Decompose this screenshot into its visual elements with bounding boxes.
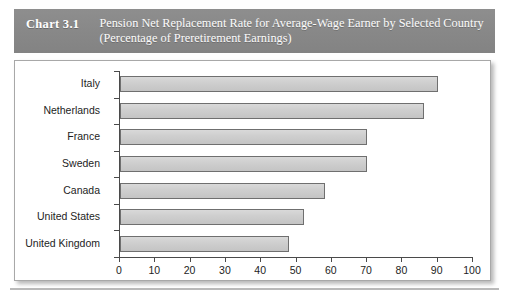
x-tick <box>260 257 261 262</box>
x-tick-label: 30 <box>219 264 231 276</box>
y-tick <box>114 177 119 178</box>
y-tick <box>114 230 119 231</box>
bar-united-kingdom <box>120 236 289 252</box>
bar-italy <box>120 76 438 92</box>
y-tick <box>114 204 119 205</box>
y-tick <box>114 151 119 152</box>
x-tick-label: 100 <box>463 264 481 276</box>
chart-title: Pension Net Replacement Rate for Average… <box>99 16 487 46</box>
x-tick-label: 20 <box>184 264 196 276</box>
x-tick-label: 0 <box>116 264 122 276</box>
bar-france <box>120 129 367 145</box>
y-tick <box>114 98 119 99</box>
x-tick-label: 80 <box>396 264 408 276</box>
x-tick <box>331 257 332 262</box>
y-axis-label-italy: Italy <box>81 77 100 89</box>
y-tick <box>114 71 119 72</box>
chart-plot-area: ItalyNetherlandsFranceSwedenCanadaUnited… <box>15 61 490 280</box>
x-tick-label: 40 <box>254 264 266 276</box>
bar-canada <box>120 183 325 199</box>
x-tick <box>119 257 120 262</box>
x-tick <box>296 257 297 262</box>
y-tick <box>114 124 119 125</box>
x-tick <box>472 257 473 262</box>
x-tick <box>437 257 438 262</box>
y-axis-label-france: France <box>67 130 100 142</box>
bar-sweden <box>120 156 367 172</box>
x-tick <box>401 257 402 262</box>
x-tick <box>154 257 155 262</box>
x-tick-label: 90 <box>431 264 443 276</box>
x-tick <box>366 257 367 262</box>
chart-plot-frame: ItalyNetherlandsFranceSwedenCanadaUnited… <box>14 60 491 281</box>
bar-series <box>120 71 473 257</box>
chart-header-band: Chart 3.1 Pension Net Replacement Rate f… <box>14 9 495 53</box>
x-tick-label: 70 <box>360 264 372 276</box>
x-tick-label: 10 <box>148 264 160 276</box>
y-axis-label-netherlands: Netherlands <box>43 104 100 116</box>
chart-page: Chart 3.1 Pension Net Replacement Rate f… <box>0 0 509 300</box>
y-axis-label-united-states: United States <box>37 210 100 222</box>
y-axis-label-sweden: Sweden <box>62 157 100 169</box>
x-tick <box>190 257 191 262</box>
chart-number-label: Chart 3.1 <box>26 16 79 32</box>
x-tick <box>225 257 226 262</box>
y-axis-category-labels: ItalyNetherlandsFranceSwedenCanadaUnited… <box>15 71 104 256</box>
x-tick-label: 60 <box>325 264 337 276</box>
bar-united-states <box>120 209 304 225</box>
bar-netherlands <box>120 103 424 119</box>
y-axis-label-united-kingdom: United Kingdom <box>25 237 100 249</box>
bottom-rule-divider <box>10 288 499 290</box>
x-tick-label: 50 <box>290 264 302 276</box>
y-axis-label-canada: Canada <box>63 184 100 196</box>
